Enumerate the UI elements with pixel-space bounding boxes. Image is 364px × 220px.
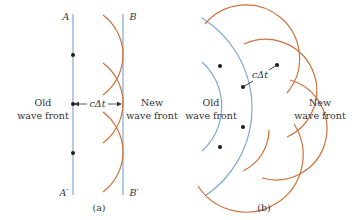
source-dot	[71, 53, 75, 57]
distance-label-b: cΔt	[252, 69, 268, 80]
new-front-label-line2: wave front	[126, 110, 178, 121]
label-b-prime: B′	[128, 187, 139, 198]
label-a-prime: A′	[58, 187, 69, 198]
distance-line-b	[243, 81, 253, 87]
source-dot	[71, 102, 75, 106]
wavelets-a	[103, 15, 123, 192]
new-front-label-line1: New	[141, 97, 163, 108]
old-front-label-line2: wave front	[17, 110, 69, 121]
panel-a: cΔt A B A′ B′ Old wave front New wave fr…	[17, 11, 178, 213]
panel-b: cΔt Old wave front New wave front (b)	[185, 5, 346, 213]
label-b: B	[129, 11, 137, 22]
new-front-label-line1: New	[309, 97, 331, 108]
source-dot	[71, 151, 75, 155]
label-a: A	[62, 11, 70, 22]
old-front-label-line2: wave front	[185, 110, 237, 121]
wavelet-arc	[103, 15, 123, 95]
old-front-label-line1: Old	[203, 97, 220, 108]
wavelet-arc	[243, 130, 269, 171]
distance-line-b	[269, 65, 277, 70]
new-front-label-line2: wave front	[294, 110, 346, 121]
distance-label-a: cΔt	[90, 98, 106, 109]
caption-a: (a)	[92, 202, 105, 213]
source-dot	[241, 125, 245, 129]
huygens-diagram: cΔt A B A′ B′ Old wave front New wave fr…	[0, 0, 364, 220]
wavelet-arc	[103, 112, 123, 192]
wavelet-arc	[103, 63, 123, 143]
source-dot	[218, 64, 222, 68]
wavelets-b	[198, 5, 327, 212]
source-dot	[218, 145, 222, 149]
caption-b: (b)	[257, 202, 271, 213]
old-front-label-line1: Old	[35, 97, 52, 108]
